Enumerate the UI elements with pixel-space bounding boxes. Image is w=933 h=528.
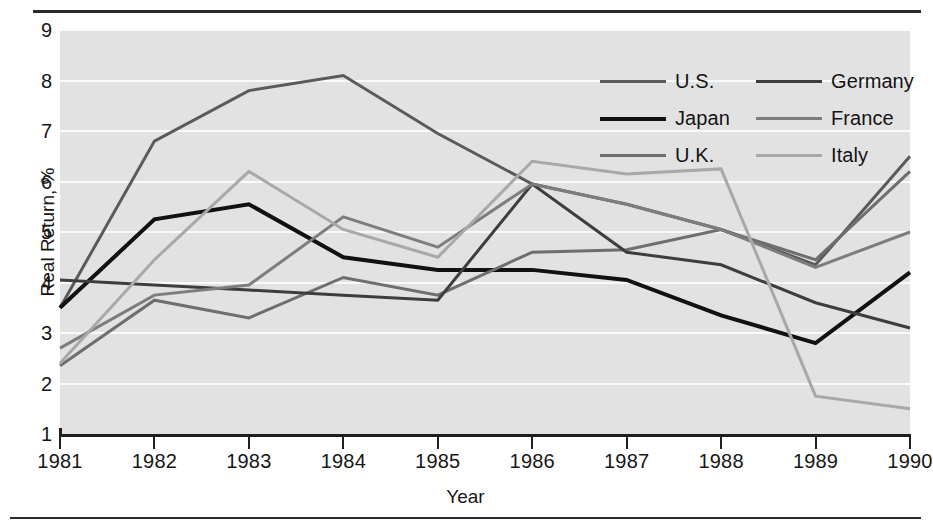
- x-tick: [342, 437, 344, 449]
- x-tick: [437, 437, 439, 449]
- legend-entry-italy[interactable]: Italy: [756, 144, 914, 167]
- legend-swatch-line-icon: [756, 154, 822, 157]
- y-tick-label: 9: [26, 19, 52, 42]
- x-axis-title: Year: [0, 486, 931, 508]
- legend-entry-uk[interactable]: U.K.: [600, 144, 730, 167]
- y-tick-label: 5: [26, 221, 52, 244]
- legend-label: U.S.: [675, 70, 714, 93]
- x-tick-label: 1989: [793, 450, 838, 473]
- legend-swatch-line-icon: [600, 117, 666, 121]
- legend-label: Japan: [675, 107, 730, 130]
- y-tick-label: 7: [26, 120, 52, 143]
- legend-swatch-line-icon: [600, 154, 666, 157]
- x-tick-label: 1986: [510, 450, 555, 473]
- x-tick-label: 1988: [698, 450, 743, 473]
- x-tick-label: 1982: [132, 450, 177, 473]
- x-tick: [626, 437, 628, 449]
- legend-entry-germany[interactable]: Germany: [756, 70, 914, 93]
- y-tick-label: 2: [26, 372, 52, 395]
- x-tick-label: 1984: [321, 450, 366, 473]
- x-tick-label: 1981: [37, 450, 82, 473]
- x-tick: [720, 437, 722, 449]
- legend-entry-france[interactable]: France: [756, 107, 914, 130]
- figure-bottom-rule: [10, 517, 921, 519]
- legend-label: U.K.: [675, 144, 714, 167]
- x-tick-label: 1990: [887, 450, 932, 473]
- x-tick-label: 1985: [415, 450, 460, 473]
- y-tick-label: 6: [26, 170, 52, 193]
- y-tick-label: 3: [26, 322, 52, 345]
- y-tick-label: 8: [26, 69, 52, 92]
- x-tick: [531, 437, 533, 449]
- x-tick-label: 1987: [604, 450, 649, 473]
- y-axis-stub: [59, 428, 62, 437]
- y-tick-label: 4: [26, 271, 52, 294]
- legend-label: Italy: [831, 144, 868, 167]
- x-tick: [59, 437, 61, 449]
- x-tick-label: 1983: [226, 450, 271, 473]
- x-tick: [815, 437, 817, 449]
- x-tick: [153, 437, 155, 449]
- legend-entry-us[interactable]: U.S.: [600, 70, 730, 93]
- legend-swatch-line-icon: [600, 80, 666, 83]
- figure-top-rule: [33, 10, 921, 13]
- legend: U.S.GermanyJapanFranceU.K.Italy: [600, 70, 914, 167]
- x-tick: [248, 437, 250, 449]
- y-tick-label: 1: [26, 423, 52, 446]
- x-tick: [909, 437, 911, 449]
- plot-area: U.S.GermanyJapanFranceU.K.Italy: [60, 30, 910, 434]
- legend-swatch-line-icon: [756, 117, 822, 120]
- legend-label: Germany: [831, 70, 914, 93]
- x-axis-line: [60, 434, 911, 437]
- series-line-italy: [60, 161, 910, 408]
- legend-label: France: [831, 107, 894, 130]
- legend-entry-japan[interactable]: Japan: [600, 107, 730, 130]
- legend-swatch-line-icon: [756, 80, 822, 83]
